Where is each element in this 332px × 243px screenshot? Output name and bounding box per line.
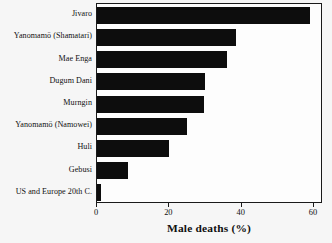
- category-label: Murngin: [0, 98, 92, 108]
- category-label: Huli: [0, 142, 92, 152]
- category-label: Yanomamö (Shamatari): [0, 31, 92, 41]
- bar-chart-figure: JivaroYanomamö (Shamatari)Mae EngaDugum …: [0, 0, 332, 243]
- x-axis-title: Male deaths (%): [96, 221, 322, 235]
- category-label: Gebusi: [0, 165, 92, 175]
- category-label: US and Europe 20th C.: [0, 187, 92, 197]
- x-tick-label: 60: [309, 207, 317, 218]
- bar: [97, 7, 310, 24]
- bar: [97, 118, 187, 135]
- x-axis: 0204060: [96, 203, 322, 221]
- x-tick-label: 20: [164, 207, 172, 218]
- x-tick-label: 40: [236, 207, 244, 218]
- plot-area: [96, 3, 322, 203]
- bar: [97, 29, 236, 46]
- category-label: Dugum Dani: [0, 76, 92, 86]
- bar: [97, 51, 227, 68]
- category-label: Jivaro: [0, 9, 92, 19]
- category-label: Mae Enga: [0, 54, 92, 64]
- x-tick-label: 0: [94, 207, 98, 218]
- bar: [97, 140, 169, 157]
- bar: [97, 184, 101, 201]
- category-label: Yanomamö (Namowei): [0, 120, 92, 130]
- bar: [97, 96, 204, 113]
- bar: [97, 73, 205, 90]
- bar: [97, 162, 128, 179]
- category-axis: JivaroYanomamö (Shamatari)Mae EngaDugum …: [0, 3, 92, 203]
